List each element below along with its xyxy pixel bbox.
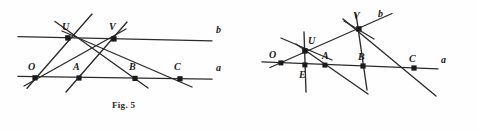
figure-5-caption: Fig. 5 (112, 100, 135, 110)
vertex-V (111, 36, 116, 41)
line-label-a: a (216, 63, 221, 73)
line-label-b: b (378, 9, 383, 19)
point-label-E: E (299, 70, 306, 80)
vertex-O (32, 75, 37, 80)
vertex-V (356, 26, 361, 31)
point-label-U: U (308, 36, 315, 46)
figure-sheet: U V O A B C b a Fig. 5 (0, 0, 477, 131)
line-label-a: a (441, 55, 446, 65)
figure-6-panel: V U O E A B C b a Fig. 6 (240, 0, 477, 131)
vertex-B (360, 63, 365, 68)
line-a (18, 76, 212, 79)
point-label-O: O (28, 62, 35, 72)
vertex-U (65, 35, 70, 40)
figure-5-panel: U V O A B C b a Fig. 5 (0, 0, 240, 131)
vertex-B (132, 76, 137, 81)
point-label-C: C (174, 62, 181, 72)
vertex-A (322, 63, 327, 68)
vertex-C (177, 76, 182, 81)
figure-5-drawing (0, 0, 240, 131)
point-label-B: B (129, 62, 136, 72)
line-label-b: b (216, 25, 221, 35)
vertex-U (302, 48, 307, 53)
vertex-E (302, 62, 307, 67)
vertical-through-u-e (304, 32, 306, 92)
point-label-C: C (409, 54, 416, 64)
vertex-A (76, 75, 81, 80)
point-label-A: A (73, 62, 80, 72)
vertex-O (278, 60, 283, 65)
point-label-V: V (109, 22, 116, 32)
point-label-B: B (358, 52, 365, 62)
point-label-V: V (353, 11, 360, 21)
point-label-U: U (62, 22, 69, 32)
vertex-C (411, 65, 416, 70)
point-label-O: O (269, 50, 276, 60)
point-label-A: A (322, 51, 329, 61)
